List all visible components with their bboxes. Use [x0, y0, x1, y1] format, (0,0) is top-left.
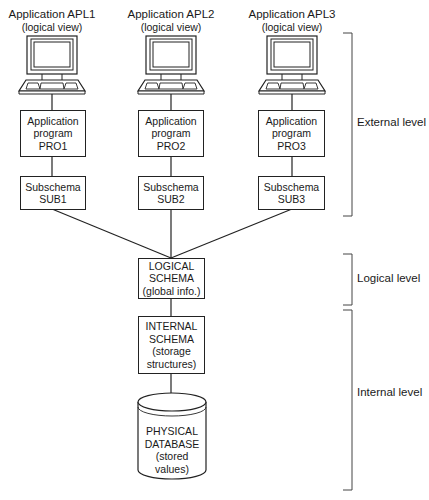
box-label: values): [137, 463, 207, 476]
terminal-icon-apl1: [19, 36, 85, 94]
app-name: Application APL3: [249, 8, 336, 20]
logical-level-label: Logical level: [357, 272, 420, 284]
box-label: SCHEMA: [149, 333, 194, 346]
app-view-label: (logical view): [0, 21, 117, 34]
terminal-icon-apl3: [259, 36, 325, 94]
box-label: PRO1: [39, 140, 68, 153]
app-name: Application APL1: [9, 8, 96, 20]
box-label: Subschema: [143, 181, 198, 194]
external-level-label: External level: [357, 116, 426, 128]
level-brackets: [343, 33, 352, 490]
box-label: LOGICAL: [149, 260, 195, 273]
box-label: PHYSICAL: [137, 425, 207, 438]
internal-level-label: Internal level: [357, 386, 422, 398]
box-label: program: [33, 127, 72, 140]
application-program-pro2: Application program PRO2: [138, 110, 204, 157]
box-label: DATABASE: [137, 438, 207, 451]
box-label: INTERNAL: [146, 320, 198, 333]
box-label: (stored: [137, 450, 207, 463]
box-label: PRO3: [277, 140, 306, 153]
box-label: PRO2: [157, 140, 186, 153]
box-label: (storage: [152, 345, 191, 358]
application-program-pro3: Application program PRO3: [258, 110, 325, 157]
diagram-canvas: [0, 0, 429, 500]
internal-schema-box: INTERNAL SCHEMA (storage structures): [138, 316, 205, 374]
box-label: Application: [266, 115, 317, 128]
application-program-pro1: Application program PRO1: [20, 110, 86, 157]
app-view-label: (logical view): [227, 21, 357, 34]
app-view-label: (logical view): [106, 21, 236, 34]
application-title-apl2: Application APL2 (logical view): [106, 8, 236, 34]
box-label: SUB3: [278, 193, 305, 206]
box-label: Application: [27, 115, 78, 128]
application-title-apl1: Application APL1 (logical view): [0, 8, 117, 34]
application-title-apl3: Application APL3 (logical view): [227, 8, 357, 34]
box-label: Subschema: [25, 181, 80, 194]
box-label: program: [272, 127, 311, 140]
terminal-icon-apl2: [138, 36, 204, 94]
subschema-sub3: Subschema SUB3: [258, 176, 325, 210]
box-label: Application: [145, 115, 196, 128]
app-name: Application APL2: [128, 8, 215, 20]
box-label: SCHEMA: [149, 272, 194, 285]
box-label: Subschema: [264, 181, 319, 194]
box-label: structures): [147, 358, 197, 371]
box-label: SUB2: [157, 193, 184, 206]
box-label: (global info.): [143, 285, 201, 298]
box-label: SUB1: [39, 193, 66, 206]
physical-database-label: PHYSICAL DATABASE (stored values): [137, 425, 207, 475]
subschema-sub2: Subschema SUB2: [138, 176, 204, 210]
box-label: program: [151, 127, 190, 140]
subschema-sub1: Subschema SUB1: [20, 176, 86, 210]
logical-schema-box: LOGICAL SCHEMA (global info.): [138, 258, 205, 299]
